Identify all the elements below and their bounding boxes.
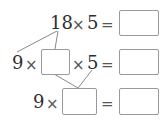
row2-times-sign-2: ×	[72, 56, 85, 74]
row3-blank-box[interactable]	[62, 88, 97, 115]
row3-answer-box[interactable]	[119, 88, 159, 115]
line-18-to-blank	[55, 31, 58, 49]
row3-number-9: 9	[33, 93, 44, 111]
row2-equals-sign: =	[101, 56, 114, 74]
row2-times-sign-1: ×	[25, 56, 38, 74]
row3-times-sign: ×	[46, 95, 59, 113]
row2-factor-5: 5	[87, 54, 98, 72]
row1-factor-5: 5	[87, 14, 98, 32]
row2-blank-box[interactable]	[41, 49, 70, 75]
row2-number-9: 9	[12, 54, 23, 72]
multiplication-decomposition-diagram: 18 × 5 = 9 × × 5 = 9 × =	[0, 0, 167, 121]
row1-answer-box[interactable]	[119, 10, 159, 36]
row1-equals-sign: =	[101, 16, 114, 34]
row1-number-18: 18	[50, 14, 73, 32]
row2-answer-box[interactable]	[119, 49, 159, 75]
line-blank-to-bottom	[54, 74, 78, 88]
row3-equals-sign: =	[101, 95, 114, 113]
row1-times-sign: ×	[72, 16, 85, 34]
